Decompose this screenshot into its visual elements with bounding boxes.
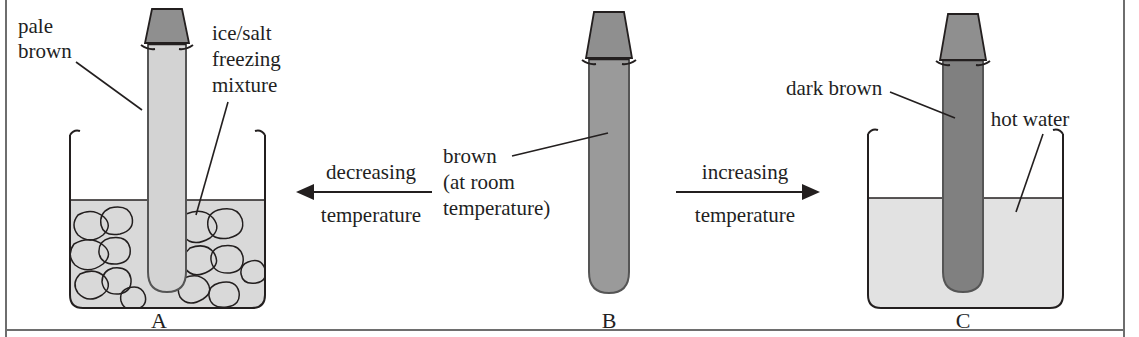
label-a-contents-leader [76, 62, 142, 110]
arrow-decreasing-label-above: decreasing [326, 160, 416, 184]
tube-letter-c: C [956, 308, 971, 333]
label-a-bath-line-2: mixture [212, 73, 277, 97]
beaker-a-lip-right [255, 131, 265, 136]
label-a-bath-line-0: ice/salt [212, 21, 272, 45]
setup-b: brown (at room temperature) B [443, 12, 636, 333]
arrow-increasing-label-below: temperature [695, 203, 795, 227]
test-tube-c-stopper [940, 14, 986, 60]
label-b-contents-line-0: brown [443, 144, 497, 168]
test-tube-b-body [589, 58, 629, 293]
setup-a: pale brown ice/salt freezing mixture A [18, 9, 281, 333]
label-a-bath-leader [196, 102, 228, 215]
label-c-bath: hot water [991, 107, 1070, 131]
tube-letter-a: A [151, 308, 167, 333]
test-tube-a-stopper [145, 9, 189, 43]
arrow-decreasing-temperature: decreasing temperature [296, 160, 432, 227]
label-a-bath-line-1: freezing [212, 47, 281, 71]
label-b-contents-line-2: temperature) [443, 196, 550, 220]
arrow-increasing-head [802, 184, 820, 200]
arrow-decreasing-label-below: temperature [321, 203, 421, 227]
test-tube-b-stopper [586, 12, 632, 58]
label-b-contents-line-1: (at room [443, 170, 515, 194]
label-c-contents: dark brown [786, 76, 883, 100]
label-a-contents-line-0: pale [18, 14, 53, 38]
tube-letter-b: B [602, 308, 617, 333]
arrow-increasing-label-above: increasing [702, 160, 789, 184]
arrow-decreasing-head [296, 184, 314, 200]
test-tube-a-body [148, 43, 186, 292]
beaker-c-lip-left [868, 130, 878, 135]
setup-c: dark brown hot water C [786, 14, 1069, 333]
label-a-contents-line-1: brown [18, 39, 72, 63]
diagram-canvas: pale brown ice/salt freezing mixture A d… [0, 0, 1139, 337]
arrow-increasing-temperature: increasing temperature [676, 160, 820, 227]
figure-panel: pale brown ice/salt freezing mixture A d… [0, 0, 1139, 337]
test-tube-c-body [943, 60, 983, 292]
beaker-a-lip-left [70, 131, 80, 136]
